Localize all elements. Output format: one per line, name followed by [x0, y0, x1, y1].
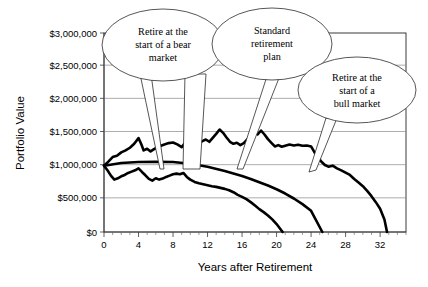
- x-tick-label-20: 20: [271, 239, 282, 250]
- y-tick-labels: $3,000,000 $2,500,000 $2,000,000 $1,500,…: [49, 28, 97, 238]
- x-tick-label-8: 8: [170, 239, 175, 250]
- y-tick-label-500000: $500,000: [57, 192, 97, 203]
- x-tick-label-28: 28: [340, 239, 351, 250]
- x-tick-labels: 0 4 8 12 16 20 24 28 32: [101, 239, 385, 250]
- x-tick-label-24: 24: [306, 239, 317, 250]
- series-line-bear-market: [104, 166, 283, 232]
- y-tick-label-3000000: $3,000,000: [49, 28, 97, 39]
- portfolio-value-chart: $3,000,000 $2,500,000 $2,000,000 $1,500,…: [0, 0, 428, 287]
- standard-callout-tail-left: [183, 74, 206, 169]
- callout-bull[interactable]: Retire at the start of a bull market: [298, 57, 416, 123]
- y-tick-label-1000000: $1,000,000: [49, 159, 97, 170]
- standard-callout-tail-right: [237, 73, 281, 169]
- bear-callout-line-2: start of a bear: [135, 39, 191, 50]
- callout-bear[interactable]: Retire at the start of a bear market: [102, 9, 224, 81]
- bear-callout-line-1: Retire at the: [138, 26, 188, 37]
- x-tick-label-16: 16: [237, 239, 248, 250]
- bear-callout-tail: [140, 74, 164, 169]
- bull-callout-line-1: Retire at the: [332, 72, 382, 83]
- bull-callout-line-3: bull market: [334, 98, 381, 109]
- x-tick-marks: [104, 232, 406, 237]
- x-tick-label-12: 12: [202, 239, 213, 250]
- x-tick-label-4: 4: [136, 239, 141, 250]
- y-tick-label-0: $0: [86, 227, 97, 238]
- bull-callout-line-2: start of a: [339, 85, 375, 96]
- standard-callout-line-1: Standard: [254, 25, 290, 36]
- standard-callout-line-2: retirement: [251, 38, 293, 49]
- series-line-standard-plan: [104, 162, 322, 232]
- x-axis-title: Years after Retirement: [198, 261, 313, 273]
- y-axis-title: Portfolio Value: [14, 96, 26, 170]
- y-tick-label-2500000: $2,500,000: [49, 60, 97, 71]
- x-tick-label-0: 0: [101, 239, 106, 250]
- y-tick-marks: [100, 33, 104, 232]
- chart-canvas: $3,000,000 $2,500,000 $2,000,000 $1,500,…: [0, 0, 428, 287]
- standard-callout-line-3: plan: [263, 51, 281, 62]
- y-tick-label-1500000: $1,500,000: [49, 126, 97, 137]
- y-tick-label-2000000: $2,000,000: [49, 93, 97, 104]
- x-tick-label-32: 32: [375, 239, 386, 250]
- bear-callout-line-3: market: [149, 52, 177, 63]
